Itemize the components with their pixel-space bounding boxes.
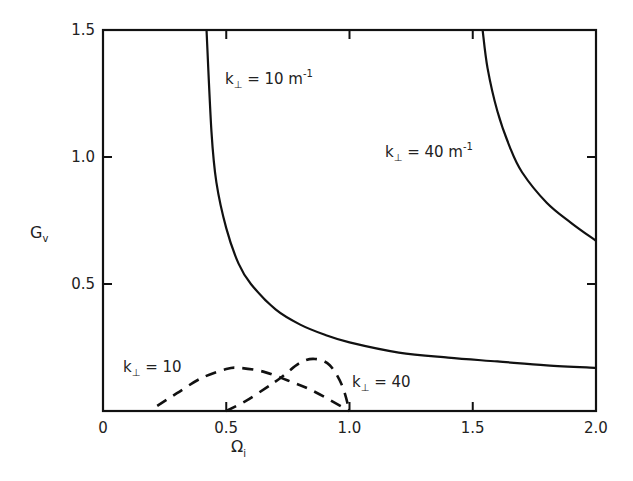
plot-border <box>103 30 596 411</box>
chart: 00.51.01.52.00.51.01.5 Gv Ωi k⊥ = 10 m-1… <box>0 0 633 481</box>
y-tick-label: 1.0 <box>71 148 95 166</box>
plot-frame <box>103 30 596 411</box>
y-tick-label: 1.5 <box>71 21 95 39</box>
annotation-k40-dashed: k⊥ = 40 <box>352 373 411 393</box>
x-axis-label: Ωi <box>231 437 246 459</box>
dashed-curve-3 <box>226 359 349 411</box>
x-tick-label: 0 <box>98 419 108 437</box>
y-tick-label: 0.5 <box>71 275 95 293</box>
y-axis-label: Gv <box>30 223 48 244</box>
x-tick-label: 0.5 <box>214 419 238 437</box>
annotation-k10-solid: k⊥ = 10 m-1 <box>225 68 313 90</box>
data-series <box>157 30 596 411</box>
x-tick-label: 1.5 <box>461 419 485 437</box>
solid-curve-1 <box>483 30 596 241</box>
x-tick-label: 1.0 <box>338 419 362 437</box>
x-tick-label: 2.0 <box>584 419 608 437</box>
annotation-k10-dashed: k⊥ = 10 <box>123 358 182 378</box>
annotation-k40-solid: k⊥ = 40 m-1 <box>385 141 473 163</box>
dashed-curve-2 <box>157 368 349 411</box>
